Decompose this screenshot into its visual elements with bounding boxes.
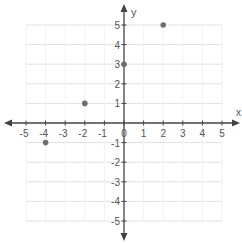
x-axis-left-arrow-icon <box>4 120 12 127</box>
x-tick-label: -1 <box>98 128 107 139</box>
y-tick-label: -3 <box>111 177 120 188</box>
data-point <box>160 22 166 28</box>
y-axis-down-arrow-icon <box>121 233 128 241</box>
data-point <box>121 61 127 67</box>
y-tick-label: -1 <box>111 138 120 149</box>
x-axis-label: x <box>236 107 241 118</box>
x-tick-label: -3 <box>59 128 68 139</box>
x-tick-label: 0 <box>121 128 127 139</box>
x-tick-label: -4 <box>39 128 48 139</box>
coordinate-plane: -5-4-3-2-1012345-5-4-3-2-112345 x y <box>0 0 242 243</box>
y-tick-label: 4 <box>114 40 120 51</box>
x-axis-right-arrow-icon <box>232 120 240 127</box>
data-point <box>43 140 49 146</box>
y-tick-label: -5 <box>111 216 120 227</box>
data-point <box>82 101 88 107</box>
x-tick-label: 1 <box>141 128 147 139</box>
y-tick-label: 3 <box>114 59 120 70</box>
y-tick-label: -4 <box>111 196 120 207</box>
x-tick-label: -2 <box>78 128 87 139</box>
x-tick-label: 4 <box>200 128 206 139</box>
axes <box>4 4 240 241</box>
x-tick-label: 3 <box>180 128 186 139</box>
y-axis-up-arrow-icon <box>121 4 128 12</box>
x-tick-label: -5 <box>20 128 29 139</box>
x-tick-label: 2 <box>160 128 166 139</box>
y-tick-label: 1 <box>114 98 120 109</box>
y-tick-label: 2 <box>114 79 120 90</box>
y-tick-label: 5 <box>114 20 120 31</box>
x-tick-label: 5 <box>219 128 225 139</box>
y-tick-label: -2 <box>111 157 120 168</box>
y-axis-label: y <box>131 6 137 18</box>
